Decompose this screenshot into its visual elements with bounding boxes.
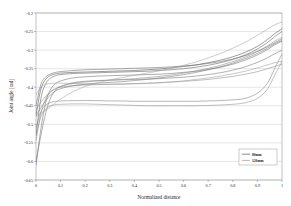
y-tick-label: -0.25 xyxy=(24,29,33,34)
x-axis-title: Normalized distance xyxy=(138,194,181,200)
x-tick-label: 0.4 xyxy=(132,183,138,188)
x-tick-label: 0.8 xyxy=(230,183,235,188)
x-tick-label: 0.6 xyxy=(181,183,186,188)
y-tick-label: -0.5 xyxy=(26,122,33,127)
y-tick-label: -0.3 xyxy=(26,48,33,53)
x-tick-label: 0.7 xyxy=(206,183,211,188)
x-tick-label: 0 xyxy=(35,183,37,188)
x-axis-tick-labels: 00.10.20.30.40.50.60.70.80.91 xyxy=(35,183,283,188)
y-tick-label: -0.45 xyxy=(24,103,33,108)
y-tick-label: -0.65 xyxy=(24,178,33,183)
x-tick-label: 0.5 xyxy=(156,183,161,188)
legend-label: 120mm xyxy=(252,159,263,163)
chart-legend: 80mm120mm xyxy=(239,149,277,165)
line-chart: -0.2-0.25-0.3-0.35-0.4-0.45-0.5-0.55-0.6… xyxy=(0,0,291,206)
y-tick-label: -0.6 xyxy=(26,159,33,164)
y-tick-label: -0.2 xyxy=(26,11,33,16)
y-tick-label: -0.4 xyxy=(26,85,34,90)
x-tick-label: 0.3 xyxy=(107,183,112,188)
x-tick-label: 1 xyxy=(281,183,283,188)
y-axis-tick-labels: -0.2-0.25-0.3-0.35-0.4-0.45-0.5-0.55-0.6… xyxy=(24,11,36,183)
x-tick-label: 0.9 xyxy=(255,183,260,188)
y-axis-title: Joint angle [rad] xyxy=(8,79,15,113)
y-tick-label: -0.35 xyxy=(24,66,33,71)
x-tick-label: 0.2 xyxy=(83,183,88,188)
chart-figure: -0.2-0.25-0.3-0.35-0.4-0.45-0.5-0.55-0.6… xyxy=(0,0,291,206)
y-tick-label: -0.55 xyxy=(24,140,33,145)
x-tick-label: 0.1 xyxy=(58,183,63,188)
legend-label: 80mm xyxy=(252,153,262,157)
